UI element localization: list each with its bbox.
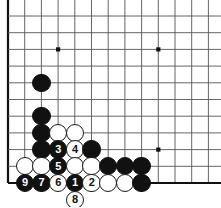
- stone-white-move-8: 8: [66, 191, 84, 208]
- move-number: 3: [55, 144, 61, 155]
- stone-white: [32, 157, 50, 175]
- stone-white-move-2: 2: [82, 174, 100, 192]
- move-number: 7: [39, 177, 45, 188]
- move-number: 6: [55, 177, 61, 188]
- star-point: [56, 47, 60, 51]
- stone-white: [82, 157, 100, 175]
- stone-black-move-9: 9: [16, 174, 34, 192]
- move-number: 9: [22, 177, 28, 188]
- move-number: 8: [72, 194, 78, 205]
- move-number: 2: [89, 177, 95, 188]
- move-number: 5: [55, 160, 61, 171]
- stone-black: [132, 174, 150, 192]
- star-point: [156, 148, 160, 152]
- stone-white-move-4: 4: [66, 140, 84, 158]
- stone-black: [32, 74, 50, 92]
- stone-white: [66, 124, 84, 142]
- stone-black: [32, 124, 50, 142]
- move-number: 4: [72, 144, 78, 155]
- stone-black-move-7: 7: [32, 174, 50, 192]
- star-point: [156, 47, 160, 51]
- stone-black: [32, 140, 50, 158]
- stone-black-move-3: 3: [49, 140, 67, 158]
- go-diagram: 345976128: [0, 0, 221, 207]
- stone-black: [82, 140, 100, 158]
- stone-black-move-1: 1: [66, 174, 84, 192]
- move-number: 1: [72, 177, 78, 188]
- stone-black: [32, 107, 50, 125]
